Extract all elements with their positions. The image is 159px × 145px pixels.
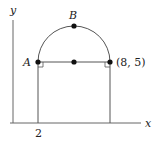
point-center (71, 59, 76, 64)
point-a-label: A (22, 56, 31, 69)
y-axis-label: y (9, 4, 17, 17)
point-right (107, 59, 112, 64)
x-tick-label: 2 (35, 127, 42, 140)
figure: y x A B (8, 5) 2 (0, 0, 159, 145)
point-a (35, 59, 40, 64)
x-axis-label: x (145, 117, 152, 130)
point-b (71, 23, 76, 28)
semicircle-arc (38, 26, 110, 62)
point-b-label: B (68, 9, 77, 22)
right-point-label: (8, 5) (116, 56, 146, 69)
